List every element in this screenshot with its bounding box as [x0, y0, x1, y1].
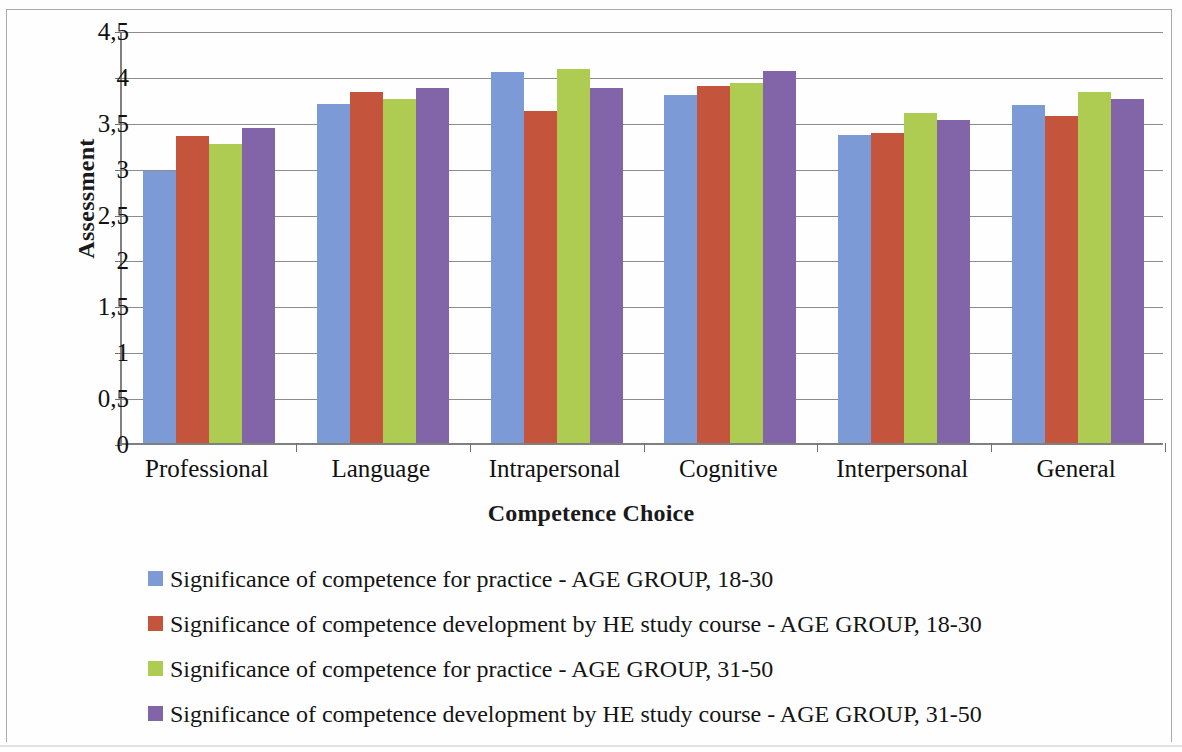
legend-item[interactable]: Significance of competence development b…	[148, 691, 1148, 736]
y-axis-tick-label: 0	[59, 432, 129, 457]
legend-item[interactable]: Significance of competence development b…	[148, 601, 1148, 646]
y-axis-tick-label: 2	[59, 248, 129, 273]
bar[interactable]	[209, 144, 242, 443]
bar[interactable]	[491, 72, 524, 443]
bar-group-bars	[296, 32, 470, 443]
legend-item[interactable]: Significance of competence for practice …	[148, 556, 1148, 601]
bar[interactable]	[557, 69, 590, 443]
y-axis-tick-label: 4	[59, 65, 129, 90]
bar[interactable]	[524, 111, 557, 443]
bar[interactable]	[242, 128, 275, 443]
x-axis-tick	[817, 443, 818, 452]
bar-group-bars	[817, 32, 991, 443]
legend-label: Significance of competence development b…	[170, 702, 982, 726]
x-axis-category-label: Professional	[120, 455, 294, 483]
bar[interactable]	[937, 120, 970, 443]
legend-swatch-icon	[148, 571, 163, 586]
y-axis-tick-label: 2,5	[59, 203, 129, 228]
legend-label: Significance of competence for practice …	[170, 657, 773, 681]
bar[interactable]	[590, 88, 623, 443]
bar[interactable]	[1045, 116, 1078, 443]
x-axis-tick	[644, 443, 645, 452]
bar[interactable]	[697, 86, 730, 443]
bar[interactable]	[904, 113, 937, 443]
bar[interactable]	[763, 71, 796, 443]
y-axis-tick-label: 4,5	[59, 19, 129, 44]
y-axis-tick-label: 3,5	[59, 111, 129, 136]
x-axis-title: Competence Choice	[0, 500, 1182, 527]
bar[interactable]	[383, 99, 416, 443]
bar-group	[817, 32, 991, 443]
bar[interactable]	[871, 133, 904, 443]
x-axis-category-label: Intrapersonal	[468, 455, 642, 483]
legend-item[interactable]: Significance of competence for practice …	[148, 646, 1148, 691]
legend-swatch-icon	[148, 661, 163, 676]
bar-group-bars	[470, 32, 644, 443]
bar-group	[470, 32, 644, 443]
bar[interactable]	[350, 92, 383, 444]
bar[interactable]	[1012, 105, 1045, 443]
x-axis-tick	[991, 443, 992, 452]
y-axis-tick-label: 1,5	[59, 294, 129, 319]
x-axis-category-label: Language	[294, 455, 468, 483]
bar-group-bars	[644, 32, 818, 443]
x-axis-category-label: Cognitive	[642, 455, 816, 483]
bar[interactable]	[176, 136, 209, 443]
legend-swatch-icon	[148, 706, 163, 721]
bar-chart: Assessment 00,511,522,533,544,5 Professi…	[0, 0, 1182, 752]
bar[interactable]	[1078, 92, 1111, 444]
bar-group	[991, 32, 1165, 443]
plot-area	[120, 32, 1163, 445]
x-axis-tick	[296, 443, 297, 452]
x-axis-tick	[1165, 443, 1166, 452]
bar-group-bars	[991, 32, 1165, 443]
y-axis-tick-label: 0,5	[59, 386, 129, 411]
bar-group-bars	[122, 32, 296, 443]
bar-group	[296, 32, 470, 443]
bar[interactable]	[664, 95, 697, 443]
bar[interactable]	[838, 135, 871, 443]
y-axis-tick-label: 1	[59, 340, 129, 365]
y-axis-tick-label: 3	[59, 157, 129, 182]
legend-label: Significance of competence for practice …	[170, 567, 773, 591]
bar[interactable]	[730, 83, 763, 443]
chart-page: Assessment 00,511,522,533,544,5 Professi…	[0, 0, 1182, 752]
bar[interactable]	[416, 88, 449, 443]
x-axis-tick	[470, 443, 471, 452]
bar[interactable]	[1111, 99, 1144, 443]
bar[interactable]	[143, 171, 176, 443]
legend-swatch-icon	[148, 616, 163, 631]
bar-group	[122, 32, 296, 443]
bar[interactable]	[317, 104, 350, 443]
x-axis-category-label: Interpersonal	[815, 455, 989, 483]
x-axis-category-label: General	[989, 455, 1163, 483]
bar-group	[644, 32, 818, 443]
chart-legend: Significance of competence for practice …	[148, 556, 1148, 736]
legend-label: Significance of competence development b…	[170, 612, 982, 636]
